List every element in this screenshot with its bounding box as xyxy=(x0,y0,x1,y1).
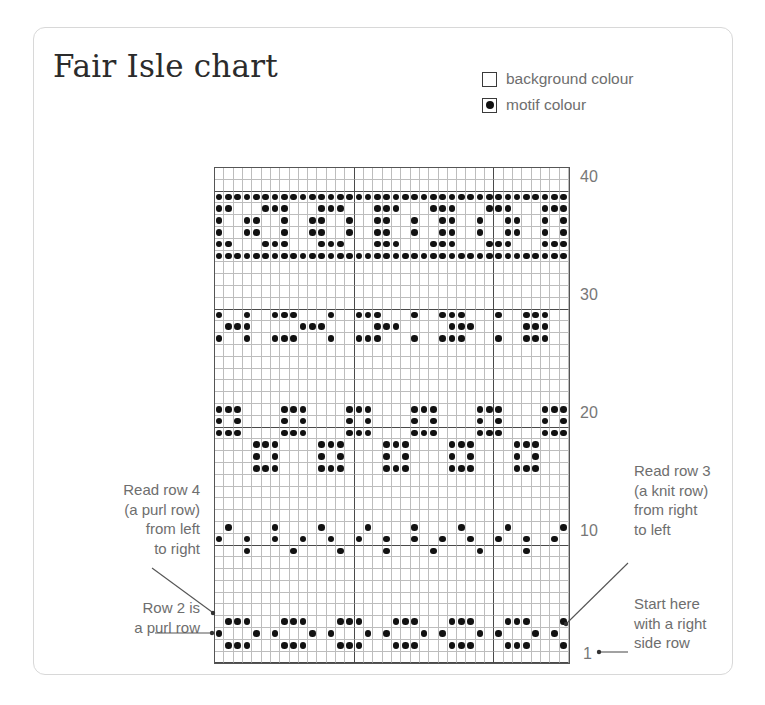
background-cell xyxy=(355,463,364,475)
background-cell xyxy=(448,604,457,616)
background-cell xyxy=(485,640,494,652)
background-cell xyxy=(373,180,382,192)
background-cell xyxy=(336,321,345,333)
background-cell xyxy=(364,487,373,499)
motif-cell xyxy=(243,227,252,239)
background-cell xyxy=(560,498,569,510)
background-cell xyxy=(224,298,233,310)
motif-cell xyxy=(522,534,531,546)
motif-cell xyxy=(541,321,550,333)
motif-cell xyxy=(457,616,466,628)
motif-cell xyxy=(215,428,224,440)
background-cell xyxy=(308,534,317,546)
background-cell xyxy=(522,416,531,428)
motif-cell xyxy=(494,251,503,263)
background-cell xyxy=(355,593,364,605)
background-cell xyxy=(373,286,382,298)
background-cell xyxy=(420,345,429,357)
background-cell xyxy=(401,168,410,180)
background-cell xyxy=(345,357,354,369)
motif-cell xyxy=(494,416,503,428)
background-cell xyxy=(541,357,550,369)
background-cell xyxy=(280,593,289,605)
page-title: Fair Isle chart xyxy=(53,48,278,84)
background-cell xyxy=(439,604,448,616)
background-cell xyxy=(252,416,261,428)
background-cell xyxy=(290,203,299,215)
chart-row xyxy=(215,392,569,404)
background-cell xyxy=(336,392,345,404)
chart-row xyxy=(215,274,569,286)
background-cell xyxy=(522,215,531,227)
row-label-20: 20 xyxy=(580,404,598,422)
fair-isle-chart-grid xyxy=(214,167,570,664)
background-cell xyxy=(364,475,373,487)
motif-cell xyxy=(243,333,252,345)
background-cell xyxy=(560,557,569,569)
background-cell xyxy=(271,345,280,357)
motif-cell xyxy=(336,251,345,263)
background-cell xyxy=(457,510,466,522)
background-cell xyxy=(299,357,308,369)
motif-cell xyxy=(327,333,336,345)
motif-cell xyxy=(448,227,457,239)
motif-cell xyxy=(336,640,345,652)
background-cell xyxy=(429,215,438,227)
background-cell xyxy=(299,593,308,605)
background-cell xyxy=(466,345,475,357)
background-cell xyxy=(457,298,466,310)
background-cell xyxy=(485,498,494,510)
background-cell xyxy=(560,274,569,286)
motif-cell xyxy=(513,640,522,652)
motif-cell xyxy=(541,192,550,204)
background-cell xyxy=(308,569,317,581)
motif-cell xyxy=(494,534,503,546)
background-cell xyxy=(336,227,345,239)
background-cell xyxy=(317,392,326,404)
background-cell xyxy=(271,546,280,558)
background-cell xyxy=(513,428,522,440)
background-cell xyxy=(234,310,243,322)
background-cell xyxy=(317,652,326,664)
motif-cell xyxy=(457,192,466,204)
motif-cell xyxy=(420,628,429,640)
background-cell xyxy=(215,345,224,357)
motif-cell xyxy=(494,203,503,215)
background-cell xyxy=(373,428,382,440)
background-cell xyxy=(439,416,448,428)
motif-cell xyxy=(224,251,233,263)
background-cell xyxy=(494,652,503,664)
chart-row xyxy=(215,404,569,416)
motif-cell xyxy=(401,451,410,463)
background-cell xyxy=(364,604,373,616)
background-cell xyxy=(476,180,485,192)
background-cell xyxy=(290,628,299,640)
background-cell xyxy=(522,557,531,569)
chart-row xyxy=(215,640,569,652)
background-cell xyxy=(299,522,308,534)
background-cell xyxy=(215,581,224,593)
background-cell xyxy=(299,652,308,664)
background-cell xyxy=(290,487,299,499)
motif-cell xyxy=(457,522,466,534)
background-cell xyxy=(411,180,420,192)
background-cell xyxy=(243,593,252,605)
background-cell xyxy=(504,262,513,274)
background-cell xyxy=(336,298,345,310)
motif-cell xyxy=(215,534,224,546)
background-cell xyxy=(550,380,559,392)
background-cell xyxy=(243,487,252,499)
motif-cell xyxy=(383,227,392,239)
background-cell xyxy=(401,593,410,605)
background-cell xyxy=(280,652,289,664)
background-cell xyxy=(504,510,513,522)
motif-cell xyxy=(401,616,410,628)
background-cell xyxy=(252,392,261,404)
background-cell xyxy=(234,227,243,239)
background-cell xyxy=(513,487,522,499)
background-cell xyxy=(401,416,410,428)
background-cell xyxy=(383,180,392,192)
background-cell xyxy=(243,451,252,463)
motif-cell xyxy=(420,404,429,416)
background-cell xyxy=(466,262,475,274)
